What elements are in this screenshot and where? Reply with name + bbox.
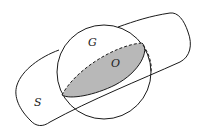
diagram: G O S <box>0 0 207 133</box>
label-o: O <box>111 57 120 70</box>
label-g: G <box>88 36 97 49</box>
label-s: S <box>34 96 42 109</box>
region-o-shaded <box>62 43 145 97</box>
